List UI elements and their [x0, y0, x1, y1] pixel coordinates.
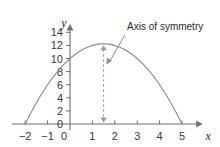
y-tick-label: 4 [57, 92, 63, 104]
parabola-chart: −2−1012345 x 02468101214 y Axis of symme… [0, 0, 220, 147]
x-tick-label: 2 [112, 130, 118, 142]
y-tick-label: 10 [51, 53, 63, 65]
y-axis-label: y [60, 16, 67, 30]
x-tick-label: 1 [89, 130, 95, 142]
y-tick-label: 12 [51, 39, 63, 51]
x-tick-label: 3 [134, 130, 140, 142]
axis-of-symmetry-label: Axis of symmetry [127, 21, 203, 32]
annotation-leader-line [110, 35, 125, 60]
x-tick-label: −1 [41, 130, 54, 142]
x-tick-label: 4 [157, 130, 163, 142]
y-axis-arrowhead [67, 24, 74, 31]
annotation-leader-group [106, 35, 125, 64]
y-tick-label: 2 [57, 105, 63, 117]
x-axis-arrowhead [196, 121, 203, 128]
axis-of-symmetry-arrow-top [100, 45, 106, 50]
x-axis-tick-labels: −2−1012345 [19, 130, 185, 142]
x-tick-label: −2 [19, 130, 32, 142]
figure-container: −2−1012345 x 02468101214 y Axis of symme… [0, 0, 220, 147]
y-axis: 02468101214 y [51, 16, 74, 130]
axis-of-symmetry-group [100, 45, 106, 122]
x-axis-label: x [204, 129, 211, 143]
x-tick-label: 5 [179, 130, 185, 142]
axis-of-symmetry-arrow-bottom [100, 118, 106, 123]
x-tick-label: 0 [61, 130, 67, 142]
y-tick-label: 0 [57, 118, 63, 130]
y-tick-label: 6 [57, 79, 63, 91]
